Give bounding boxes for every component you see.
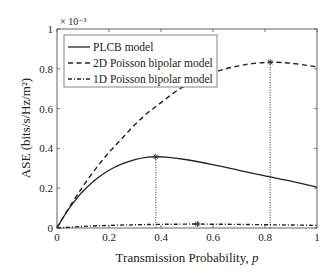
ase-line-chart: 00.20.40.60.8100.20.40.60.81 × 10⁻³ Tran… [0,0,333,275]
y-tick-label: 0.4 [39,142,53,154]
y-tick-label: 1 [48,23,54,35]
legend-entry-label: PLCB model [93,41,153,53]
y-multiplier-label: × 10⁻³ [60,16,86,27]
y-tick-label: 0.2 [39,182,53,194]
x-tick-label: 0 [54,231,60,243]
x-axis-label-variable: p [251,250,259,265]
legend: PLCB model2D Poisson bipolar model1D Poi… [64,35,217,87]
x-tick-label: 0.8 [258,231,272,243]
x-tick-label: 0.4 [154,231,168,243]
x-axis-label-main: Transmission Probability, [116,250,252,265]
legend-entry-label: 2D Poisson bipolar model [93,57,213,70]
legend-entry-label: 1D Poisson bipolar model [93,73,213,86]
x-axis-label: Transmission Probability, p [116,250,259,265]
x-tick-label: 0.6 [206,231,220,243]
x-tick-label: 0.2 [102,231,116,243]
y-tick-label: 0.6 [39,103,53,115]
y-tick-label: 0 [48,222,54,234]
peak-marker-icon [267,59,273,65]
peak-marker-icon [194,221,200,227]
y-axis-label: ASE (bits/s/Hz/m²) [18,78,33,178]
peak-marker-icon [153,154,159,160]
y-tick-label: 0.8 [39,63,53,75]
x-tick-label: 1 [314,231,320,243]
